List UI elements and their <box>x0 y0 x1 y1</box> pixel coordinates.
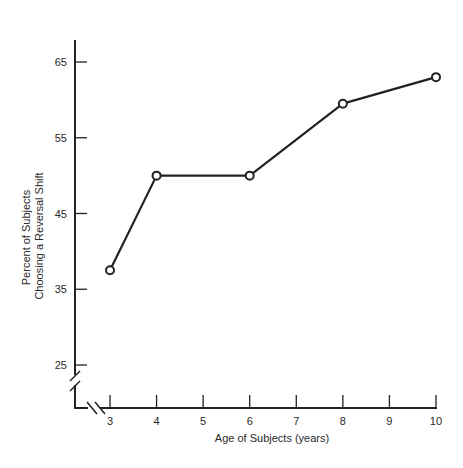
x-axis: 345678910 <box>74 395 442 427</box>
x-tick-label: 3 <box>107 415 113 427</box>
x-tick-label: 9 <box>386 415 392 427</box>
x-tick-label: 10 <box>430 415 442 427</box>
x-tick-label: 8 <box>340 415 346 427</box>
y-tick-label: 35 <box>55 283 67 295</box>
x-axis-break-mark <box>87 402 97 414</box>
y-tick-label: 65 <box>55 56 67 68</box>
y-axis-title: Percent of Subjects Choosing a Reversal … <box>20 172 45 299</box>
data-point-marker <box>339 100 347 108</box>
x-axis-title: Age of Subjects (years) <box>215 432 329 444</box>
y-tick-label: 25 <box>55 359 67 371</box>
x-tick-label: 6 <box>247 415 253 427</box>
data-point-marker <box>246 172 254 180</box>
y-axis-title-line-2: Choosing a Reversal Shift <box>33 172 45 299</box>
x-tick-label: 7 <box>293 415 299 427</box>
line-chart: 2535455565 345678910 Age of Subjects (ye… <box>0 0 463 468</box>
y-tick-label: 55 <box>55 132 67 144</box>
data-point-marker <box>153 172 161 180</box>
y-axis-title-line-1: Percent of Subjects <box>20 189 32 285</box>
data-point-marker <box>106 266 114 274</box>
y-tick-label: 45 <box>55 208 67 220</box>
x-tick-label: 5 <box>200 415 206 427</box>
data-point-marker <box>432 73 440 81</box>
x-tick-label: 4 <box>154 415 160 427</box>
y-axis: 2535455565 <box>55 40 87 408</box>
data-series <box>106 73 440 274</box>
